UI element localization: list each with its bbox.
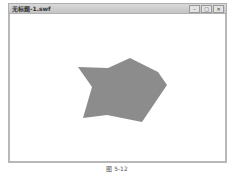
stage-canvas: [0, 0, 234, 175]
figure-caption: 图 5-12: [0, 165, 234, 173]
polygon-shape: [78, 58, 167, 122]
